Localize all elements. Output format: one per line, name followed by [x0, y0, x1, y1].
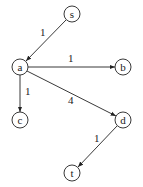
node-label-t: t: [70, 167, 73, 179]
node-a: a: [12, 59, 28, 75]
node-d: d: [115, 112, 131, 128]
edge-d-t: 1: [78, 126, 117, 167]
edge-weight-a-c: 1: [25, 85, 31, 97]
edge-a-c: 1: [20, 75, 31, 112]
node-label-d: d: [120, 114, 126, 126]
edge-weight-a-d: 4: [68, 94, 74, 106]
edge-a-b: 1: [28, 52, 115, 67]
node-b: b: [115, 59, 131, 75]
graph-diagram: 1 1 1 4 1 s a b c d t: [0, 0, 143, 187]
node-label-c: c: [18, 114, 23, 126]
node-s: s: [64, 6, 80, 22]
node-t: t: [64, 165, 80, 181]
edge-weight-s-a: 1: [40, 26, 46, 38]
edge-s-a: 1: [26, 20, 66, 61]
node-label-b: b: [120, 61, 126, 73]
edge-a-d: 4: [27, 71, 116, 116]
node-label-s: s: [70, 8, 74, 20]
edge-weight-a-b: 1: [68, 52, 74, 64]
edge-weight-d-t: 1: [94, 132, 100, 144]
node-c: c: [12, 112, 28, 128]
node-label-a: a: [18, 61, 23, 73]
